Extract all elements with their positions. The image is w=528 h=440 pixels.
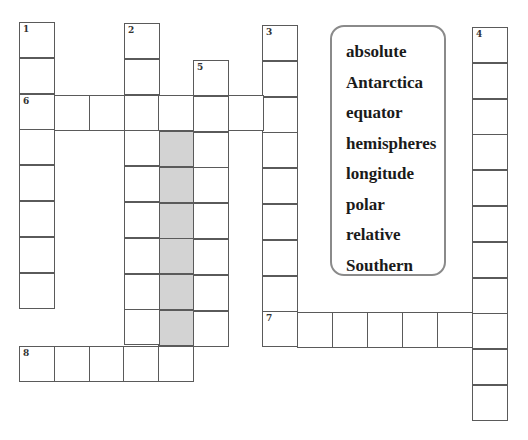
letter-input[interactable]	[403, 313, 437, 347]
crossword-cell[interactable]: 2	[124, 23, 160, 59]
letter-input[interactable]	[263, 205, 297, 239]
crossword-cell[interactable]	[367, 312, 403, 348]
letter-input[interactable]	[124, 347, 158, 381]
crossword-cell[interactable]: 1	[19, 22, 55, 58]
letter-input[interactable]	[368, 313, 402, 347]
crossword-cell[interactable]	[262, 97, 298, 133]
crossword-cell[interactable]	[472, 63, 508, 99]
crossword-cell[interactable]: 4	[472, 27, 508, 63]
crossword-cell[interactable]	[124, 274, 160, 310]
crossword-cell[interactable]	[89, 95, 125, 131]
crossword-cell[interactable]	[124, 202, 160, 238]
crossword-cell[interactable]	[193, 239, 229, 275]
crossword-cell[interactable]	[193, 96, 229, 132]
letter-input[interactable]	[333, 313, 367, 347]
letter-input[interactable]	[473, 386, 507, 420]
crossword-cell[interactable]	[124, 238, 160, 274]
crossword-cell[interactable]: 3	[262, 25, 298, 61]
crossword-cell[interactable]	[402, 312, 438, 348]
crossword-cell[interactable]	[124, 59, 160, 95]
letter-input[interactable]	[263, 62, 297, 96]
letter-input[interactable]	[473, 350, 507, 384]
letter-input[interactable]	[263, 241, 297, 275]
crossword-cell[interactable]	[262, 61, 298, 97]
letter-input[interactable]	[20, 166, 54, 200]
crossword-cell[interactable]	[297, 312, 333, 348]
letter-input[interactable]	[125, 60, 159, 94]
crossword-cell[interactable]	[19, 165, 55, 201]
crossword-cell[interactable]	[472, 349, 508, 385]
letter-input[interactable]	[125, 24, 159, 58]
letter-input[interactable]	[473, 64, 507, 98]
letter-input[interactable]	[229, 96, 263, 130]
crossword-cell[interactable]	[262, 204, 298, 240]
letter-input[interactable]	[473, 100, 507, 134]
letter-input[interactable]	[298, 313, 332, 347]
letter-input[interactable]	[125, 131, 159, 165]
letter-input[interactable]	[20, 95, 54, 129]
letter-input[interactable]	[20, 59, 54, 93]
crossword-cell[interactable]	[472, 242, 508, 278]
crossword-cell[interactable]	[54, 95, 90, 131]
letter-input[interactable]	[263, 98, 297, 132]
letter-input[interactable]	[20, 274, 54, 308]
crossword-cell[interactable]	[124, 95, 160, 131]
letter-input[interactable]	[194, 97, 228, 131]
letter-input[interactable]	[159, 96, 193, 130]
crossword-cell[interactable]: 7	[262, 311, 298, 347]
letter-input[interactable]	[263, 277, 297, 311]
letter-input[interactable]	[125, 203, 159, 237]
letter-input[interactable]	[473, 279, 507, 313]
crossword-cell[interactable]	[262, 168, 298, 204]
crossword-cell[interactable]: 6	[19, 94, 55, 130]
letter-input[interactable]	[473, 28, 507, 62]
letter-input[interactable]	[55, 347, 89, 381]
letter-input[interactable]	[263, 133, 297, 167]
letter-input[interactable]	[125, 167, 159, 201]
crossword-cell[interactable]	[472, 278, 508, 314]
crossword-cell[interactable]	[193, 132, 229, 168]
crossword-cell[interactable]	[158, 95, 194, 131]
crossword-cell[interactable]	[193, 203, 229, 239]
crossword-cell[interactable]	[332, 312, 368, 348]
letter-input[interactable]	[20, 130, 54, 164]
crossword-cell[interactable]	[193, 275, 229, 311]
letter-input[interactable]	[20, 238, 54, 272]
crossword-cell[interactable]	[19, 58, 55, 94]
letter-input[interactable]	[20, 202, 54, 236]
crossword-cell[interactable]	[262, 276, 298, 312]
letter-input[interactable]	[194, 240, 228, 274]
crossword-cell[interactable]	[437, 312, 473, 348]
letter-input[interactable]	[125, 96, 159, 130]
crossword-cell[interactable]	[472, 134, 508, 170]
letter-input[interactable]	[125, 239, 159, 273]
crossword-cell[interactable]	[472, 206, 508, 242]
crossword-cell[interactable]	[19, 129, 55, 165]
crossword-cell[interactable]: 5	[193, 60, 229, 96]
letter-input[interactable]	[473, 171, 507, 205]
crossword-cell[interactable]	[89, 346, 125, 382]
crossword-cell[interactable]	[19, 201, 55, 237]
crossword-cell[interactable]	[472, 99, 508, 135]
crossword-cell[interactable]	[19, 273, 55, 309]
letter-input[interactable]	[473, 314, 507, 348]
crossword-cell[interactable]	[123, 346, 159, 382]
letter-input[interactable]	[90, 96, 124, 130]
letter-input[interactable]	[194, 312, 228, 346]
crossword-cell[interactable]	[193, 311, 229, 347]
crossword-cell[interactable]	[54, 346, 90, 382]
letter-input[interactable]	[263, 312, 297, 346]
crossword-cell[interactable]	[262, 240, 298, 276]
crossword-cell[interactable]	[472, 170, 508, 206]
letter-input[interactable]	[194, 168, 228, 202]
crossword-cell[interactable]: 8	[19, 346, 55, 382]
letter-input[interactable]	[263, 169, 297, 203]
crossword-cell[interactable]	[193, 167, 229, 203]
letter-input[interactable]	[20, 23, 54, 57]
letter-input[interactable]	[194, 204, 228, 238]
crossword-cell[interactable]	[124, 309, 160, 345]
letter-input[interactable]	[194, 133, 228, 167]
crossword-cell[interactable]	[19, 237, 55, 273]
letter-input[interactable]	[20, 347, 54, 381]
crossword-cell[interactable]	[472, 313, 508, 349]
